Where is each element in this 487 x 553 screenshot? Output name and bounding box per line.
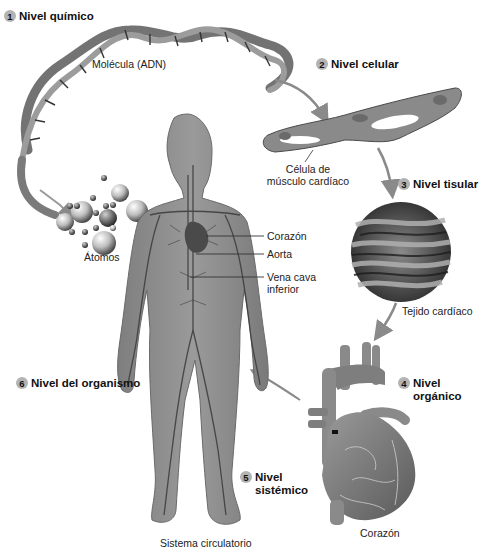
- cardiac-muscle-cell-illustration: [263, 88, 461, 162]
- arrow-tissue-to-heart: [378, 303, 396, 335]
- level-title: Nivel químico: [19, 10, 94, 23]
- level-5-system: 5 Nivel sistémico: [240, 471, 308, 497]
- heart-organ-illustration: [308, 342, 415, 525]
- label-circulatory-system: Sistema circulatorio: [160, 537, 252, 549]
- arrow-dna-to-cell: [275, 80, 325, 118]
- level-title: Nivel sistémico: [255, 471, 308, 497]
- label-line-1: Célula de: [263, 163, 353, 175]
- level-3-tissue: 3 Nivel tisular: [398, 178, 478, 191]
- callout-line-2: inferior: [267, 283, 316, 295]
- callout-line-1: Vena cava: [267, 271, 316, 283]
- level-title: Nivel celular: [331, 58, 399, 71]
- levels-of-organization-diagram: 1 Nivel químico 2 Nivel celular 3 Nivel …: [0, 0, 487, 553]
- level-title-line-1: Nivel: [255, 471, 308, 484]
- human-body-illustration: [118, 114, 269, 524]
- label-molecule-dna: Molécula (ADN): [92, 58, 166, 70]
- level-6-organism: 6 Nivel del organismo: [16, 377, 140, 390]
- label-atoms: Átomos: [84, 251, 120, 263]
- label-cardiac-tissue: Tejido cardíaco: [402, 305, 473, 317]
- label-heart-organ: Corazón: [360, 527, 400, 539]
- level-4-organ: 4 Nivel orgánico: [398, 377, 487, 403]
- level-number-badge: 5: [240, 471, 252, 483]
- callout-heart: Corazón: [267, 230, 307, 242]
- level-number-badge: 1: [4, 10, 16, 22]
- level-1-chemical: 1 Nivel químico: [4, 10, 94, 23]
- level-title: Nivel del organismo: [31, 377, 140, 390]
- label-cardiac-muscle-cell: Célula de músculo cardíaco: [263, 163, 353, 187]
- arrow-cell-to-tissue: [378, 148, 392, 192]
- level-number-badge: 6: [16, 377, 28, 389]
- callout-aorta: Aorta: [267, 248, 292, 260]
- level-title: Nivel tisular: [413, 178, 478, 191]
- level-title-line-2: sistémico: [255, 484, 308, 497]
- callout-inferior-vena-cava: Vena cava inferior: [267, 271, 316, 295]
- level-title: Nivel orgánico: [413, 377, 487, 403]
- cardiac-tissue-illustration: [351, 202, 451, 302]
- label-line-2: músculo cardíaco: [263, 175, 353, 187]
- level-number-badge: 2: [316, 58, 328, 70]
- level-number-badge: 4: [398, 377, 410, 389]
- level-2-cellular: 2 Nivel celular: [316, 58, 399, 71]
- level-number-badge: 3: [398, 178, 410, 190]
